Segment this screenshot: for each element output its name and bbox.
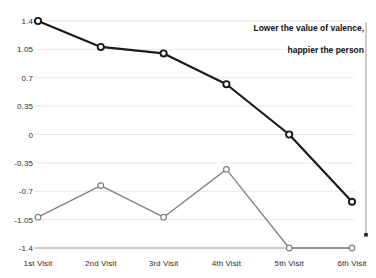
y-axis-tick: 0.35 [0, 102, 33, 111]
data-point-marker[interactable] [349, 245, 355, 251]
y-axis-tick: 1.4 [0, 17, 33, 26]
data-point-marker[interactable] [223, 81, 229, 87]
data-point-marker[interactable] [286, 131, 292, 137]
data-point-marker[interactable] [224, 167, 230, 173]
x-axis-tick: 1st Visit [7, 259, 69, 268]
data-point-marker[interactable] [35, 18, 41, 24]
data-point-marker[interactable] [98, 183, 104, 189]
data-point-marker[interactable] [286, 245, 292, 251]
y-axis-tick: -1.4 [0, 244, 33, 253]
x-axis-tick: 5th Visit [258, 259, 320, 268]
data-point-marker[interactable] [98, 44, 104, 50]
data-point-marker[interactable] [161, 214, 167, 220]
valence-annotation: Lower the value of valence, happier the … [214, 12, 364, 67]
series-lower-series [35, 167, 355, 251]
data-point-marker[interactable] [35, 214, 41, 220]
y-axis-tick: 0.7 [0, 73, 33, 82]
y-axis-tick: 0 [0, 130, 33, 139]
y-axis-tick: -1.05 [0, 215, 33, 224]
arrow-head [364, 233, 368, 237]
valence-annotation-line-1: Lower the value of valence, [214, 23, 364, 34]
x-axis-tick: 3rd Visit [133, 259, 195, 268]
x-axis-tick: 4th Visit [195, 259, 257, 268]
y-axis-tick: 1.05 [0, 45, 33, 54]
y-axis-tick: -0.35 [0, 158, 33, 167]
x-axis-tick: 2nd Visit [70, 259, 132, 268]
chart-container: 1.41.050.70.350-0.35-0.7-1.05-1.4 1st Vi… [0, 0, 376, 278]
series-line [38, 169, 352, 248]
data-point-marker[interactable] [161, 50, 167, 56]
data-point-marker[interactable] [349, 199, 355, 205]
y-axis-tick: -0.7 [0, 187, 33, 196]
down-arrow-icon [364, 22, 368, 237]
valence-annotation-line-2: happier the person [214, 45, 364, 56]
x-axis-tick: 6th Visit [321, 259, 376, 268]
